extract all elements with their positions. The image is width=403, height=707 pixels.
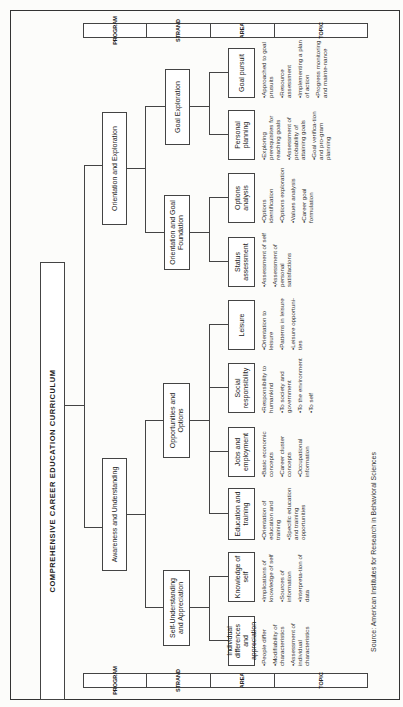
header-strand: STRAND <box>147 24 211 37</box>
area-knowledge-of-self: Knowledge of self <box>228 552 255 602</box>
topic-list-social-responsibility: •Responsibility to humankind •To society… <box>260 355 318 413</box>
area-social-responsibility: Social responsibility <box>228 363 255 413</box>
header-program: PROGRAM <box>84 24 147 37</box>
area-individual-differences: Individual differences and appreciation <box>228 616 255 666</box>
connector <box>209 324 228 325</box>
connector <box>209 261 228 262</box>
connector <box>127 514 145 515</box>
connector <box>145 420 146 608</box>
topic-list-options-analysis: •Options identification •Options explora… <box>260 165 318 223</box>
strand-self-understanding: Self-Understanding and Appreciation <box>163 570 190 646</box>
area-goal-pursuit: Goal pursuit <box>228 48 255 98</box>
connector <box>190 106 209 107</box>
topic-item: •To the environment <box>296 355 303 413</box>
topic-item: •Assessment of self <box>260 229 267 287</box>
connector <box>209 451 228 452</box>
area-leisure: Leisure <box>228 300 255 350</box>
header-area: AREA <box>211 674 275 687</box>
connector <box>209 134 228 135</box>
header-strand: STRAND <box>147 674 211 687</box>
connector <box>145 232 164 233</box>
connector <box>145 106 165 107</box>
header-topic: TOPIC <box>275 674 367 687</box>
topic-item: •Assessment of individual characteristic… <box>289 610 310 666</box>
area-status-assessment: Status assessment <box>228 237 255 287</box>
topic-item: •Orientation to leisure <box>260 294 274 350</box>
topic-item: •Patterns in leisure <box>278 294 285 350</box>
connector <box>145 607 163 608</box>
topic-item: •Assessment of personal satisfactions <box>271 229 292 287</box>
topic-item: •To self <box>307 355 314 413</box>
source-note: Source: American Institutes for Research… <box>370 452 377 652</box>
connector <box>127 168 145 169</box>
connector <box>190 232 209 233</box>
topic-item: •Values analysis <box>289 165 296 223</box>
strand-orientation-goal-foundation: Orientation and Goal Foundation <box>164 195 190 270</box>
header-area: AREA <box>211 24 275 37</box>
connector <box>209 387 228 388</box>
connector <box>84 527 103 528</box>
connector <box>209 513 228 514</box>
area-options-analysis: Options analysis <box>228 173 255 223</box>
topic-item: •Implementing a plan of action <box>296 40 310 98</box>
topic-item: •Occupational information <box>296 419 310 477</box>
topic-item: •Implications of knowledge of self <box>260 544 274 602</box>
topic-item: •Options identification <box>260 165 274 223</box>
topic-item: •Assessment of probability of attaining … <box>285 102 306 160</box>
topic-item: •Career cluster concepts <box>278 419 292 477</box>
topic-list-jobs-and-employment: •Basic economic concepts •Career cluster… <box>260 419 314 477</box>
program-orientation-and-exploration: Orientation and Exploration <box>102 112 127 225</box>
level-header-left: PROGRAM STRAND AREA TOPIC <box>83 673 368 688</box>
strand-goal-exploration: Goal Exploration <box>165 69 190 145</box>
connector <box>65 405 84 406</box>
area-jobs-and-employment: Jobs and employment <box>228 427 255 477</box>
strand-opportunities-and-options: Opportunities and Options <box>163 383 190 458</box>
connector <box>209 577 210 641</box>
topic-list-personal-planning: •Exploring prerequisites for reaching go… <box>260 102 335 160</box>
connector <box>145 420 163 421</box>
topic-item: •Approached to goal prusuits <box>260 40 274 98</box>
topic-item: •Responsibility to humankind <box>260 355 274 413</box>
topic-item: •Basic economic concepts <box>260 419 274 477</box>
connector <box>209 198 210 262</box>
connector <box>190 420 209 421</box>
topic-item: •Exploring prerequisites for reaching go… <box>260 102 281 160</box>
topic-item: •Modifiability of characteristics <box>271 610 285 666</box>
curriculum-title: COMPREHENSIVE CAREER EDUCATION CURRICULU… <box>40 262 65 700</box>
topic-item: •Orientation of education and training <box>260 482 281 540</box>
connector <box>209 324 210 514</box>
connector <box>145 107 146 233</box>
area-education-and-training: Education and training <box>228 488 255 540</box>
topic-item: •Options exploration <box>278 165 285 223</box>
topic-list-individual-differences: •People differ •Modifiability of charact… <box>260 610 314 666</box>
program-awareness-and-understanding: Awareness and Understanding <box>102 458 127 571</box>
topic-item: •Progress monitoring and mainte-nance <box>314 40 328 98</box>
topic-list-goal-pursuit: •Approached to goal prusuits •Resource a… <box>260 40 332 98</box>
topic-item: •Interpreta-tion of data <box>296 544 310 602</box>
connector <box>209 72 210 135</box>
connector <box>209 576 228 577</box>
topic-item: •Leisure opportuni-ties <box>289 294 303 350</box>
topic-item: •To society and government <box>278 355 292 413</box>
topic-item: •Career goal formulation <box>300 165 314 223</box>
header-topic: TOPIC <box>275 24 367 37</box>
connector <box>209 72 228 73</box>
outer-frame <box>10 10 400 700</box>
topic-list-leisure: •Orientation to leisure •Patterns in lei… <box>260 294 307 350</box>
topic-item: •Specific education and training opportu… <box>285 482 306 540</box>
topic-list-education-and-training: •Orientation of education and training •… <box>260 482 310 540</box>
topic-item: •Sources of information <box>278 544 292 602</box>
connector <box>84 165 85 528</box>
topic-item: •Resource assessment <box>278 40 292 98</box>
rotated-page: PROGRAM STRAND AREA TOPIC PROGRAM STRAND… <box>0 0 403 707</box>
connector <box>190 607 209 608</box>
topic-list-status-assessment: •Assessment of self •Assessment of perso… <box>260 229 296 287</box>
level-header-right: PROGRAM STRAND AREA TOPIC <box>83 23 368 38</box>
connector <box>209 197 228 198</box>
header-program: PROGRAM <box>84 674 147 687</box>
connector <box>84 165 103 166</box>
area-personal-planning: Personal planning <box>228 110 255 160</box>
topic-item: •People differ <box>260 610 267 666</box>
topic-item: •Goal verifica-tion and pro-gram plannin… <box>310 102 331 160</box>
topic-list-knowledge-of-self: •Implications of knowledge of self •Sour… <box>260 544 314 602</box>
